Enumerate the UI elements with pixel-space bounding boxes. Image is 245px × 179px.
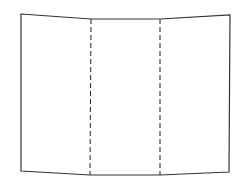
trifold-outline: [21, 14, 230, 175]
trifold-diagram: [0, 0, 245, 179]
